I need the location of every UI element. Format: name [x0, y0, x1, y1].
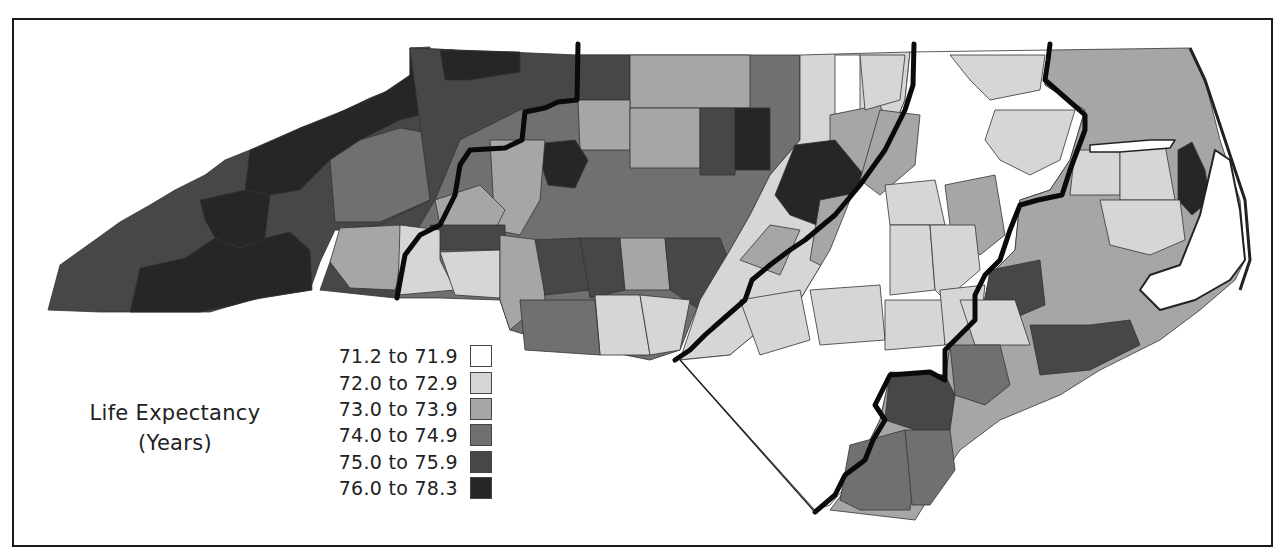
legend-item: 72.0 to 72.9 — [318, 369, 492, 395]
legend-item: 73.0 to 73.9 — [318, 396, 492, 422]
north-carolina-map — [0, 0, 1281, 559]
legend-swatch — [470, 477, 492, 499]
legend-label: 73.0 to 73.9 — [318, 398, 470, 420]
county-co-dark-2 — [1030, 320, 1140, 375]
county-co-mid-3 — [905, 430, 955, 505]
county-ic-pale-9 — [885, 300, 945, 350]
legend-swatch — [470, 398, 492, 420]
legend-item: 75.0 to 75.9 — [318, 449, 492, 475]
legend-item: 74.0 to 74.9 — [318, 422, 492, 448]
legend-title: Life Expectancy (Years) — [40, 398, 310, 458]
county-ic-pale-8 — [810, 285, 885, 345]
county-ic-pale-4 — [885, 180, 945, 225]
county-cp-dark-2 — [700, 108, 735, 175]
county-cp-light-3 — [630, 108, 700, 168]
legend-label: 75.0 to 75.9 — [318, 451, 470, 473]
county-cp-dark-3 — [430, 225, 505, 250]
legend-swatch — [470, 345, 492, 367]
county-cp-light-1 — [630, 55, 750, 108]
county-cp-dark-1 — [578, 55, 630, 100]
legend-label: 71.2 to 71.9 — [318, 345, 470, 367]
legend-item: 71.2 to 71.9 — [318, 343, 492, 369]
county-ic-pale-5 — [890, 225, 935, 295]
county-cp-darkest-1 — [735, 108, 770, 170]
legend-label: 74.0 to 74.9 — [318, 424, 470, 446]
legend-item: 76.0 to 78.3 — [318, 475, 492, 501]
legend-label: 76.0 to 78.3 — [318, 477, 470, 499]
county-cp-light-7 — [620, 238, 670, 290]
legend-label: 72.0 to 72.9 — [318, 372, 470, 394]
county-co-pale-2 — [1120, 145, 1175, 200]
legend-swatch — [470, 424, 492, 446]
legend-swatch — [470, 372, 492, 394]
legend: 71.2 to 71.9 72.0 to 72.9 73.0 to 73.9 7… — [318, 343, 492, 501]
county-cp-mid-1 — [520, 300, 600, 355]
county-ep-white-1 — [835, 55, 860, 115]
legend-swatch — [470, 451, 492, 473]
legend-title-line2: (Years) — [40, 428, 310, 458]
legend-title-line1: Life Expectancy — [40, 398, 310, 428]
county-cp-light-2 — [578, 100, 630, 150]
